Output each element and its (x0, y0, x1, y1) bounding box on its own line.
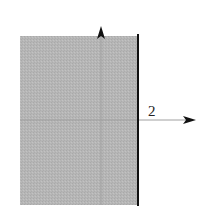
half-plane-diagram (0, 0, 205, 208)
boundary-label: 2 (148, 104, 156, 119)
